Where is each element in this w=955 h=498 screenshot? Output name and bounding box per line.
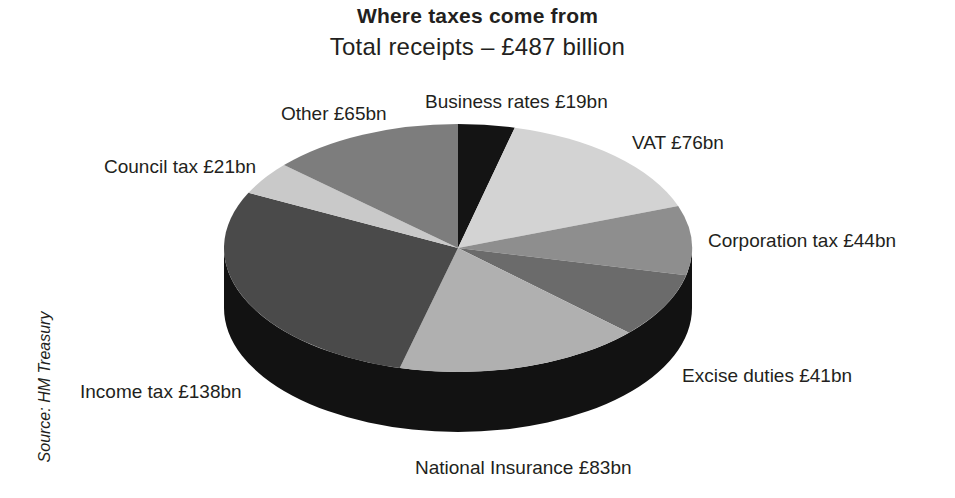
label-corporation-tax: Corporation tax £44bn (708, 231, 896, 252)
chart-canvas: Where taxes come from Total receipts – £… (0, 0, 955, 498)
source-note: Source: HM Treasury (36, 297, 54, 477)
label-council-tax: Council tax £21bn (104, 157, 256, 178)
label-business-rates: Business rates £19bn (425, 92, 608, 113)
label-national-insurance: National Insurance £83bn (415, 458, 632, 479)
label-excise-duties: Excise duties £41bn (682, 366, 852, 387)
label-other: Other £65bn (281, 104, 387, 125)
pie-top-face (224, 124, 692, 372)
label-vat: VAT £76bn (632, 133, 724, 154)
label-income-tax: Income tax £138bn (80, 382, 242, 403)
